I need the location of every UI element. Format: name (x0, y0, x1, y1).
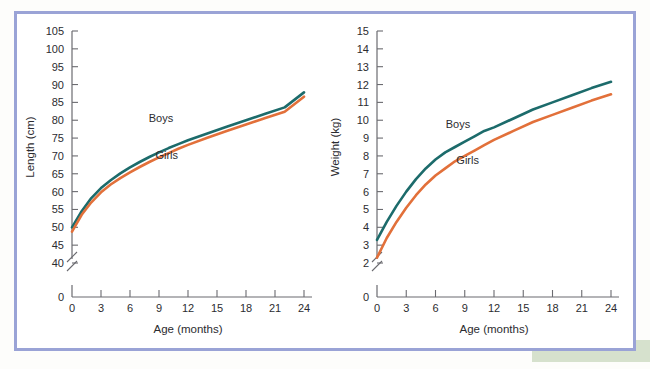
x-tick-label: 15 (211, 302, 223, 314)
y-axis-title: Weight (kg) (329, 118, 341, 177)
y-tick-label: 2 (363, 257, 369, 269)
x-tick-label: 6 (127, 302, 133, 314)
series-label-boys: Boys (149, 112, 174, 124)
x-axis-title: Age (months) (153, 323, 222, 335)
y-tick-label: 70 (52, 150, 64, 162)
series-line-girls (377, 94, 611, 257)
charts-container: 4045505560657075808590951001050036912151… (0, 0, 650, 369)
y-tick-label: 5 (363, 203, 369, 215)
x-tick-label: 12 (488, 302, 500, 314)
x-tick-label: 18 (546, 302, 558, 314)
y-tick-label: 55 (52, 203, 64, 215)
x-tick-label: 3 (403, 302, 409, 314)
x-tick-label: 12 (182, 302, 194, 314)
x-tick-label: 24 (605, 302, 617, 314)
x-tick-label: 18 (240, 302, 252, 314)
y-zero-label: 0 (363, 291, 369, 303)
y-tick-label: 4 (363, 221, 369, 233)
series-label-boys: Boys (446, 118, 471, 130)
series-label-girls: Girls (155, 149, 178, 161)
x-tick-label: 9 (462, 302, 468, 314)
y-tick-label: 15 (357, 25, 369, 37)
weight-chart: 23456789101112131415003691215182124Age (… (325, 11, 636, 351)
x-tick-label: 0 (374, 302, 380, 314)
y-tick-label: 100 (46, 43, 64, 55)
y-tick-label: 7 (363, 168, 369, 180)
y-tick-label: 80 (52, 114, 64, 126)
y-tick-label: 13 (357, 61, 369, 73)
y-tick-label: 105 (46, 25, 64, 37)
y-tick-label: 45 (52, 239, 64, 251)
x-tick-label: 3 (98, 302, 104, 314)
x-tick-label: 21 (269, 302, 281, 314)
y-tick-label: 75 (52, 132, 64, 144)
x-tick-label: 15 (517, 302, 529, 314)
x-tick-label: 21 (576, 302, 588, 314)
x-tick-label: 6 (432, 302, 438, 314)
y-tick-label: 50 (52, 221, 64, 233)
y-tick-label: 95 (52, 61, 64, 73)
y-tick-label: 85 (52, 96, 64, 108)
series-line-girls (72, 97, 304, 232)
x-tick-label: 0 (69, 302, 75, 314)
length-chart: 4045505560657075808590951001050036912151… (14, 11, 325, 351)
y-tick-label: 9 (363, 132, 369, 144)
figure-root: 4045505560657075808590951001050036912151… (0, 0, 650, 369)
y-axis-title: Length (cm) (24, 116, 36, 178)
y-tick-label: 60 (52, 186, 64, 198)
series-label-girls: Girls (456, 154, 479, 166)
y-tick-label: 8 (363, 150, 369, 162)
y-tick-label: 65 (52, 168, 64, 180)
x-tick-label: 9 (156, 302, 162, 314)
y-tick-label: 3 (363, 239, 369, 251)
y-tick-label: 14 (357, 43, 369, 55)
y-tick-label: 11 (358, 96, 369, 108)
x-tick-label: 24 (298, 302, 310, 314)
x-axis-title: Age (months) (459, 323, 528, 335)
series-line-boys (72, 92, 304, 227)
y-tick-label: 10 (357, 114, 369, 126)
y-tick-label: 12 (357, 79, 369, 91)
y-tick-label: 40 (52, 257, 64, 269)
y-tick-label: 6 (363, 186, 369, 198)
y-tick-label: 90 (52, 79, 64, 91)
y-zero-label: 0 (58, 291, 64, 303)
